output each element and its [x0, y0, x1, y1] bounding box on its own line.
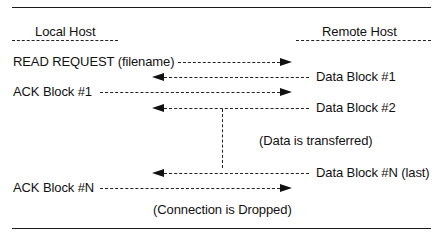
arrow-right-icon	[280, 88, 292, 96]
arrow-left-icon	[152, 73, 164, 81]
message-ack-block-n: ACK Block #N	[13, 181, 94, 195]
remote-host-underline	[296, 40, 431, 41]
arrow-left-icon	[152, 169, 164, 177]
arrow-left-icon	[152, 104, 164, 112]
arrow-right-icon	[280, 184, 292, 192]
local-host-underline	[12, 40, 118, 41]
arrow-data-block-2-line	[164, 108, 309, 109]
note-connection-dropped: (Connection is Dropped)	[153, 203, 292, 217]
arrow-data-block-1-line	[164, 77, 309, 78]
bottom-rule	[12, 228, 431, 229]
arrow-data-block-n-line	[164, 173, 309, 174]
arrow-ack-block-1-line	[100, 92, 280, 93]
message-data-block-1: Data Block #1	[316, 70, 396, 84]
arrow-right-icon	[280, 58, 292, 66]
message-data-block-2: Data Block #2	[316, 101, 396, 115]
message-data-block-n: Data Block #N (last)	[316, 166, 430, 180]
local-host-header: Local Host	[35, 25, 95, 39]
transfer-continuation-line	[222, 109, 223, 168]
top-rule	[12, 7, 431, 8]
note-data-transferred: (Data is transferred)	[259, 134, 373, 148]
message-read-request: READ REQUEST (filename)	[13, 55, 174, 69]
message-ack-block-1: ACK Block #1	[13, 85, 92, 99]
arrow-read-request-line	[178, 62, 280, 63]
remote-host-header: Remote Host	[322, 25, 397, 39]
arrow-ack-block-n-line	[100, 188, 280, 189]
